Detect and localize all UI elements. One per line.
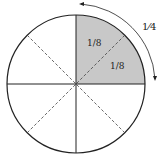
label-top-eighth: 1/8	[87, 38, 102, 48]
arrowhead-start-icon	[79, 2, 84, 6]
label-quarter: 1⁄4	[142, 21, 156, 32]
arrowhead-end-icon	[153, 76, 157, 81]
label-right-eighth: 1/8	[110, 61, 125, 71]
fraction-circle-diagram: 1/8 1/8 1⁄4	[0, 0, 159, 157]
